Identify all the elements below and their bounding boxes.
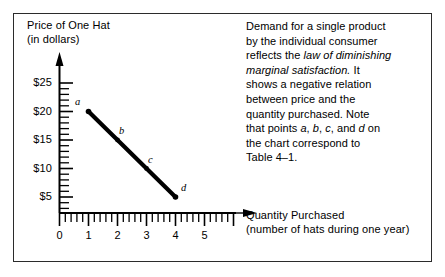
x-tick-label-1: 1 — [80, 229, 98, 241]
y-axis — [56, 52, 64, 213]
demand-curve — [86, 109, 179, 200]
y-tick-label-5: $5 — [18, 190, 52, 202]
annotation-line-9: the chart correspond to — [246, 136, 426, 151]
annotation-line-10: Table 4–1. — [246, 150, 426, 165]
point-label-c: c — [148, 154, 153, 165]
data-point-d — [173, 194, 179, 200]
point-label-d: d — [181, 182, 186, 193]
y-tick-label-20: $20 — [18, 105, 52, 117]
data-point-a — [86, 109, 92, 115]
annotation-line-8-pre: that points — [246, 122, 300, 134]
point-label-b: b — [119, 125, 124, 136]
annotation-line-3-text: reflects the — [246, 49, 304, 61]
x-tick-label-2: 2 — [109, 229, 127, 241]
annotation-line-5: shows a negative relation — [246, 77, 426, 92]
annotation-sep-3: , and — [331, 122, 359, 134]
y-tick-label-10: $10 — [18, 162, 52, 174]
annotation-line-4-text: It — [350, 64, 359, 76]
y-tick-label-25: $25 — [18, 76, 52, 88]
y-minor-ticks — [60, 89, 70, 209]
annotation-text-block: Demand for a single product by the indiv… — [246, 19, 426, 165]
annotation-line-3: reflects the law of diminishing — [246, 48, 426, 63]
annotation-line-8: that points a, b, c, and d on — [246, 121, 426, 136]
x-major-ticks — [60, 213, 234, 226]
data-point-c — [144, 166, 149, 171]
annotation-emphasis-2: marginal satisfaction. — [246, 64, 350, 76]
x-tick-label-4: 4 — [167, 229, 185, 241]
annotation-line-2: by the individual consumer — [246, 34, 426, 49]
x-axis-caption: Quantity Purchased (number of hats durin… — [246, 208, 409, 236]
figure-border: Price of One Hat (in dollars) — [13, 13, 432, 262]
annotation-line-1: Demand for a single product — [246, 19, 426, 34]
annotation-line-7: quantity purchased. Note — [246, 107, 426, 122]
x-tick-label-3: 3 — [138, 229, 156, 241]
data-point-b — [115, 138, 120, 143]
y-tick-label-15: $15 — [18, 133, 52, 145]
annotation-emphasis-1: law of diminishing — [304, 49, 392, 61]
x-tick-label-5: 5 — [196, 229, 214, 241]
annotation-line-8-post: on — [365, 122, 380, 134]
arrow-up-icon — [56, 52, 64, 66]
annotation-line-6: between price and the — [246, 92, 426, 107]
point-label-a: a — [75, 96, 80, 107]
x-tick-label-0: 0 — [51, 229, 69, 241]
annotation-line-4: marginal satisfaction. It — [246, 63, 426, 78]
